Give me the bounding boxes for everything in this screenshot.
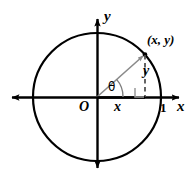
angle-theta-label: θ <box>108 81 115 93</box>
unit-tick-label: 1 <box>160 101 167 114</box>
horizontal-leg-label: x <box>114 100 121 114</box>
angle-arc <box>117 79 123 97</box>
unit-circle-canvas <box>0 0 195 184</box>
vertical-leg-label: y <box>143 64 149 78</box>
x-axis-label: x <box>177 99 185 114</box>
terminal-point-label: (x, y) <box>147 33 174 46</box>
origin-label: O <box>79 100 89 114</box>
right-angle-marker <box>135 88 144 97</box>
unit-circle-figure: y x O 1 (x, y) x y θ <box>0 0 195 184</box>
radius-segment <box>97 56 143 97</box>
y-axis-label: y <box>104 9 111 24</box>
